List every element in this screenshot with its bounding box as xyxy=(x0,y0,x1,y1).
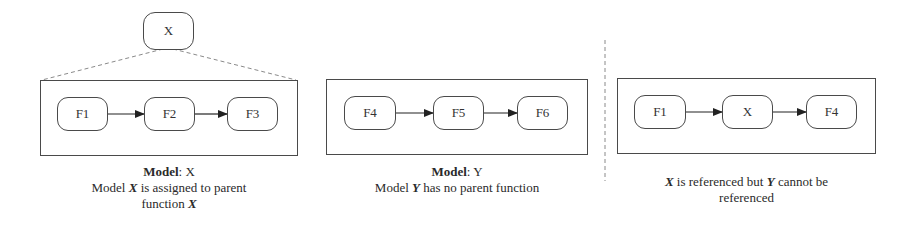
projection-line-right xyxy=(173,49,296,80)
caption-line: Model Y has no parent function xyxy=(326,180,588,196)
node-label: F6 xyxy=(536,105,550,121)
node-label: F5 xyxy=(452,105,466,121)
caption-line: function X xyxy=(40,196,298,212)
node-label: X xyxy=(164,23,173,39)
node-label: F1 xyxy=(76,106,90,122)
node-label: F1 xyxy=(653,104,667,120)
node-label: F4 xyxy=(825,104,839,120)
projection-line-left xyxy=(42,49,163,80)
node-f2: F2 xyxy=(144,97,195,131)
node-f6: F6 xyxy=(517,96,568,130)
node-label: X xyxy=(743,104,752,120)
node-label: F3 xyxy=(246,106,260,122)
model-y-caption: Model: Y Model Y has no parent function xyxy=(326,164,588,196)
caption-line: Model X is assigned to parent xyxy=(40,180,298,196)
node-f4-ref: F4 xyxy=(806,95,857,129)
caption-line: referenced xyxy=(617,190,876,206)
caption-title: Model: X xyxy=(40,164,298,180)
node-f1: F1 xyxy=(57,97,108,131)
node-f1-ref: F1 xyxy=(634,95,686,129)
node-f3: F3 xyxy=(227,97,278,131)
parent-function-x-node: X xyxy=(143,12,194,50)
node-x-ref: X xyxy=(722,95,773,129)
node-label: F4 xyxy=(363,105,377,121)
reference-caption: X is referenced but Y cannot be referenc… xyxy=(617,174,876,206)
node-label: F2 xyxy=(163,106,177,122)
caption-line: X is referenced but Y cannot be xyxy=(617,174,876,190)
node-f5: F5 xyxy=(433,96,484,130)
model-x-caption: Model: X Model X is assigned to parent f… xyxy=(40,164,298,212)
node-f4: F4 xyxy=(344,96,396,130)
caption-title: Model: Y xyxy=(326,164,588,180)
